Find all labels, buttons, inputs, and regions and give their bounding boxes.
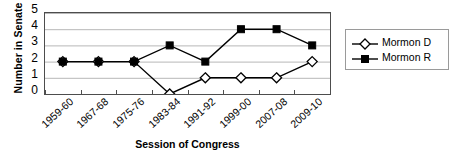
y-axis-tick-label: 2	[24, 53, 38, 63]
data-point	[237, 26, 244, 33]
chart-legend: Mormon DMormon R	[345, 29, 449, 70]
plot-area	[44, 12, 331, 95]
data-point	[273, 26, 280, 33]
data-point	[309, 42, 316, 49]
y-axis-title: Number in Senate	[12, 0, 24, 98]
data-point	[360, 39, 370, 49]
y-axis-tick-label: 1	[24, 69, 38, 79]
data-point	[362, 55, 369, 62]
x-axis-tick-labels: 1959-601967-681975-761983-841991-921999-…	[44, 96, 331, 138]
y-axis-tick-label: 0	[24, 85, 38, 95]
y-axis-tick-label: 5	[24, 4, 38, 14]
data-point	[202, 58, 209, 65]
data-point	[307, 57, 317, 67]
data-point	[236, 73, 246, 83]
legend-label: Mormon R	[379, 51, 431, 63]
plot-svg	[45, 13, 330, 94]
legend-item[interactable]: Mormon R	[346, 49, 448, 64]
x-axis-title: Session of Congress	[44, 138, 331, 150]
data-point	[59, 58, 66, 65]
legend-diamond-marker-icon	[351, 36, 379, 48]
chart-container: Number in Senate 012345 1959-601967-6819…	[0, 0, 451, 156]
legend-label: Mormon D	[379, 36, 431, 48]
data-point	[272, 73, 282, 83]
legend-item[interactable]: Mormon D	[346, 34, 448, 49]
data-point	[131, 58, 138, 65]
y-axis-tick-label: 3	[24, 36, 38, 46]
legend-square-marker-icon	[351, 51, 379, 63]
y-axis-tick-label: 4	[24, 20, 38, 30]
data-point	[95, 58, 102, 65]
y-axis-tick-labels: 012345	[24, 8, 38, 95]
data-point	[166, 42, 173, 49]
data-point	[200, 73, 210, 83]
